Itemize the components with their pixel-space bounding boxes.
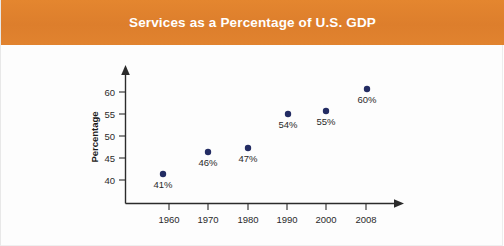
data-point[interactable] — [205, 149, 211, 155]
y-tick-label: 55 — [104, 109, 115, 120]
y-tick-label: 40 — [104, 175, 115, 186]
chart-title-bar: Services as a Percentage of U.S. GDP — [1, 0, 504, 45]
y-axis-arrowhead — [121, 65, 130, 75]
data-point-labels: 41% 46% 47% 54% 55% 60% — [153, 94, 377, 190]
x-axis-tick-labels: 1960 1970 1980 1990 2000 2008 — [158, 214, 376, 225]
page-title: Services as a Percentage of U.S. GDP — [1, 0, 504, 45]
data-point-label: 55% — [316, 116, 336, 127]
scatter-chart: 60 55 50 45 40 Percentage 1960 1970 — [1, 45, 504, 246]
data-point[interactable] — [245, 145, 251, 151]
data-point-label: 41% — [153, 179, 173, 190]
data-point[interactable] — [323, 108, 329, 114]
x-tick-label: 1980 — [237, 214, 258, 225]
data-point-label: 60% — [357, 94, 377, 105]
chart-plot-area: 60 55 50 45 40 Percentage 1960 1970 — [1, 45, 504, 246]
data-point-label: 54% — [278, 119, 298, 130]
x-axis-arrowhead — [394, 199, 404, 208]
data-series — [160, 86, 370, 177]
y-axis-ticks — [119, 92, 126, 180]
data-point[interactable] — [364, 86, 370, 92]
x-tick-label: 1970 — [197, 214, 218, 225]
y-axis — [121, 65, 130, 204]
y-tick-label: 60 — [104, 87, 115, 98]
y-axis-title: Percentage — [89, 111, 100, 162]
data-point[interactable] — [160, 171, 166, 177]
x-tick-label: 1960 — [158, 214, 179, 225]
data-point-label: 46% — [198, 157, 218, 168]
data-point-label: 47% — [238, 153, 258, 164]
x-tick-label: 2008 — [355, 214, 376, 225]
x-axis-ticks — [169, 204, 366, 211]
x-tick-label: 2000 — [315, 214, 336, 225]
y-axis-tick-labels: 60 55 50 45 40 — [104, 87, 115, 186]
x-tick-label: 1990 — [276, 214, 297, 225]
y-tick-label: 45 — [104, 153, 115, 164]
data-point[interactable] — [285, 111, 291, 117]
x-axis — [126, 199, 405, 208]
y-tick-label: 50 — [104, 131, 115, 142]
